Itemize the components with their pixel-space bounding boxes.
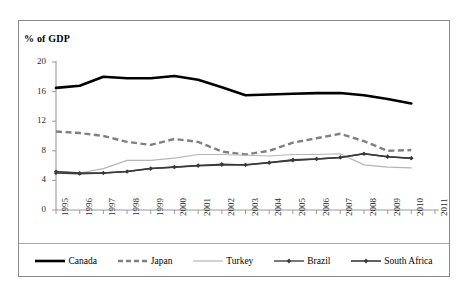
y-axis-tick-label: 16 <box>26 86 46 96</box>
series-line-turkey <box>56 154 411 173</box>
legend-label: Japan <box>151 256 173 266</box>
x-axis-tick-label: 2004 <box>273 198 283 216</box>
y-axis-tick-label: 12 <box>26 115 46 125</box>
legend-item-turkey[interactable]: Turkey <box>193 256 253 266</box>
x-axis-tick-label: 2006 <box>321 198 331 216</box>
x-axis-tick-label: 2003 <box>250 198 260 216</box>
series-line-canada <box>56 76 411 103</box>
x-axis-tick-label: 2002 <box>226 198 236 216</box>
x-axis-tick-label: 2009 <box>392 198 402 216</box>
x-axis-tick-label: 1999 <box>155 198 165 216</box>
legend-label: Brazil <box>307 256 330 266</box>
x-axis-tick-label: 1996 <box>84 198 94 216</box>
series-marker <box>243 163 247 167</box>
legend-label: Canada <box>68 256 97 266</box>
series-marker <box>125 169 129 173</box>
series-marker <box>267 161 271 165</box>
x-axis-tick-label: 2007 <box>344 198 354 216</box>
x-axis-tick-label: 2011 <box>439 198 449 216</box>
x-axis-tick-label: 2005 <box>297 198 307 216</box>
series-marker <box>149 166 153 170</box>
series-marker <box>314 157 318 161</box>
x-axis-tick-label: 2008 <box>368 198 378 216</box>
x-axis-tick-label: 1998 <box>131 198 141 216</box>
series-line-brazil <box>56 154 411 173</box>
series-marker <box>101 171 105 175</box>
legend-swatch <box>118 256 148 266</box>
legend-item-canada[interactable]: Canada <box>35 256 97 266</box>
y-axis-tick-label: 20 <box>26 56 46 66</box>
y-axis-tick-label: 4 <box>26 174 46 184</box>
legend-separator <box>19 243 449 244</box>
x-axis-tick-label: 2000 <box>178 198 188 216</box>
legend-swatch <box>274 256 304 266</box>
series-marker <box>362 152 366 156</box>
y-axis-tick-label: 8 <box>26 145 46 155</box>
legend-label: Turkey <box>226 256 253 266</box>
legend-item-japan[interactable]: Japan <box>118 256 173 266</box>
y-axis-tick-label: 0 <box>26 204 46 214</box>
legend-item-south-africa[interactable]: South Africa <box>351 256 432 266</box>
legend-swatch <box>35 256 65 266</box>
series-line-japan <box>56 132 411 155</box>
legend-swatch <box>351 256 381 266</box>
x-axis-tick-label: 2010 <box>415 198 425 216</box>
series-marker <box>409 156 413 160</box>
x-axis-tick-label: 1997 <box>107 198 117 216</box>
chart-legend: CanadaJapanTurkeyBrazilSouth Africa <box>19 250 449 272</box>
series-marker <box>386 155 390 159</box>
x-axis-tick-label: 2001 <box>202 198 212 216</box>
chart-figure: % of GDP 048121620 199519961997199819992… <box>0 0 468 295</box>
series-marker <box>338 155 342 159</box>
series-marker <box>196 164 200 168</box>
series-marker <box>220 163 224 167</box>
legend-swatch <box>193 256 223 266</box>
legend-label: South Africa <box>384 256 432 266</box>
series-marker <box>172 165 176 169</box>
x-axis-tick-label: 1995 <box>60 198 70 216</box>
series-line-south-africa <box>56 154 411 174</box>
legend-item-brazil[interactable]: Brazil <box>274 256 330 266</box>
